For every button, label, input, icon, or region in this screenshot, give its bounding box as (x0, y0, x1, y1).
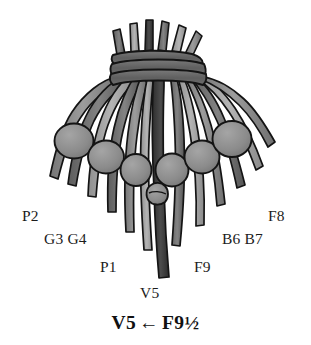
knot-cluster (156, 154, 189, 187)
caption-left-term: V5 (111, 312, 136, 333)
knot-cluster (88, 141, 124, 174)
label-f8: F8 (268, 208, 285, 224)
label-p1: P1 (100, 259, 117, 275)
figure-caption: V5←F9½ (0, 312, 311, 334)
label-p2: P2 (22, 208, 39, 224)
label-g3-g4: G3 G4 (44, 231, 87, 247)
label-f9: F9 (194, 259, 211, 275)
caption-right-term: F9½ (162, 312, 200, 333)
left-arrow-icon: ← (136, 312, 162, 333)
knot-cluster (213, 121, 252, 157)
quipu-figure: P2 F8 G3 G4 B6 B7 P1 F9 V5 V5←F9½ (0, 0, 311, 345)
label-b6-b7: B6 B7 (222, 231, 263, 247)
knot-cluster (121, 154, 152, 186)
center-cord-knot (147, 183, 168, 205)
wrap-bands-group (110, 51, 206, 85)
label-v5: V5 (140, 285, 159, 301)
